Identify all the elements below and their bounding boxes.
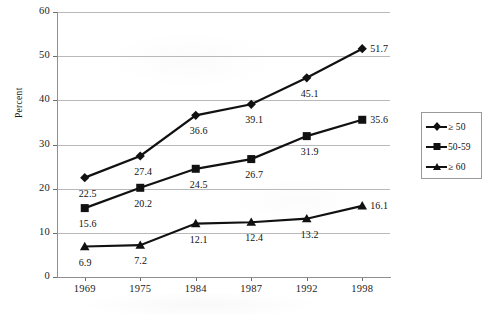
x-tick-label: 1992	[284, 283, 330, 294]
data-point-label: 31.9	[301, 146, 319, 157]
data-point-label: 15.6	[79, 218, 97, 229]
series-line-3	[85, 206, 363, 247]
triangle-marker-icon	[191, 219, 201, 227]
x-tick-label: 1998	[339, 283, 385, 294]
diamond-marker-icon	[358, 44, 367, 53]
x-tick-label: 1984	[173, 283, 219, 294]
triangle-marker-icon	[302, 214, 312, 222]
legend-label-50-59: 50-59	[448, 142, 471, 152]
triangle-marker-icon	[426, 161, 447, 173]
legend-label-ge50: ≥ 50	[448, 122, 466, 132]
x-tick-label: 1975	[117, 283, 163, 294]
chart-figure: Percent 01020304050601969197519841987199…	[0, 0, 482, 315]
legend-item-50-59[interactable]: 50-59	[426, 139, 471, 155]
y-tick-label: 60	[24, 5, 50, 16]
gridline	[57, 233, 390, 234]
legend-box: ≥ 50 50-59 ≥ 60	[421, 112, 482, 179]
series-line-1	[85, 49, 363, 178]
diamond-marker-icon	[136, 151, 145, 160]
legend-item-ge60[interactable]: ≥ 60	[426, 159, 466, 175]
data-point-label: 12.4	[245, 232, 263, 243]
gridline	[57, 189, 390, 190]
data-point-label: 27.4	[134, 166, 152, 177]
square-marker-icon	[426, 141, 447, 153]
gridline	[57, 145, 390, 146]
data-point-label: 36.6	[190, 125, 208, 136]
y-tick-label: 0	[24, 270, 50, 281]
square-marker-icon	[81, 204, 89, 212]
data-point-label: 26.7	[245, 169, 263, 180]
diamond-marker-icon	[80, 173, 89, 182]
square-marker-icon	[247, 155, 255, 163]
data-point-label: 7.2	[134, 255, 147, 266]
y-axis-title: Percent	[14, 87, 24, 118]
square-marker-icon	[192, 165, 200, 173]
scan-texture-overlay	[0, 0, 482, 315]
series-line-2	[85, 120, 363, 208]
data-point-label: 39.1	[245, 114, 263, 125]
triangle-marker-icon	[246, 217, 256, 225]
y-tick-label: 10	[24, 226, 50, 237]
data-point-label: 45.1	[301, 88, 319, 99]
data-point-label: 20.2	[134, 198, 152, 209]
x-tick-label: 1987	[228, 283, 274, 294]
triangle-marker-icon	[80, 242, 90, 250]
data-point-label: 35.6	[370, 114, 388, 125]
triangle-marker-icon	[357, 201, 367, 209]
legend-item-ge50[interactable]: ≥ 50	[426, 119, 466, 135]
x-tick-label: 1969	[62, 283, 108, 294]
legend-label-ge60: ≥ 60	[448, 162, 466, 172]
data-point-label: 12.1	[190, 234, 208, 245]
data-point-label: 16.1	[370, 200, 388, 211]
gridline	[57, 56, 390, 57]
diamond-marker-icon	[191, 111, 200, 120]
gridline	[57, 12, 390, 13]
square-marker-icon	[358, 116, 366, 124]
data-point-label: 22.5	[79, 188, 97, 199]
triangle-marker-icon	[135, 240, 145, 248]
series-canvas	[0, 0, 482, 315]
y-tick-label: 50	[24, 49, 50, 60]
data-point-label: 24.5	[190, 179, 208, 190]
data-point-label: 6.9	[79, 257, 92, 268]
data-point-label: 13.2	[301, 229, 319, 240]
square-marker-icon	[303, 132, 311, 140]
y-tick-label: 40	[24, 93, 50, 104]
diamond-marker-icon	[302, 73, 311, 82]
diamond-marker-icon	[426, 121, 447, 133]
y-axis-line	[57, 12, 58, 278]
gridline	[57, 100, 390, 101]
y-tick-label: 30	[24, 138, 50, 149]
y-tick-label: 20	[24, 182, 50, 193]
x-axis-line	[57, 277, 391, 278]
data-point-label: 51.7	[370, 43, 388, 54]
